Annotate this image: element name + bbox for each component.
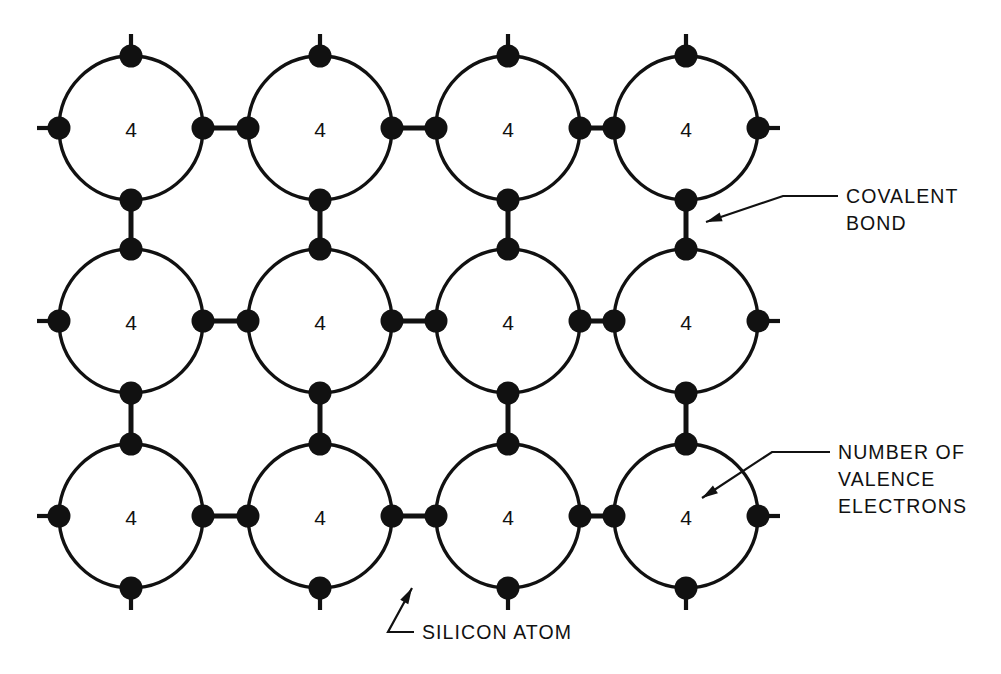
annotation-label-line: SILICON ATOM xyxy=(422,621,572,643)
valence-electron-dot xyxy=(237,117,260,140)
valence-electron-dot xyxy=(675,45,698,68)
leader-line xyxy=(702,452,830,498)
silicon-lattice-diagram: 444444444444 COVALENTBONDNUMBER OFVALENC… xyxy=(0,0,1001,674)
valence-electron-dot xyxy=(237,505,260,528)
valence-electron-count: 4 xyxy=(680,311,692,334)
valence-electron-dot xyxy=(675,577,698,600)
valence-electron-count: 4 xyxy=(680,118,692,141)
valence-electron-dot xyxy=(120,189,143,212)
valence-electron-dot xyxy=(381,117,404,140)
valence-electron-dot xyxy=(675,433,698,456)
valence-electron-dot xyxy=(497,45,520,68)
leader-arrowhead xyxy=(400,588,412,604)
valence-electron-dot xyxy=(569,117,592,140)
valence-electron-dot xyxy=(309,45,332,68)
valence-electron-dot xyxy=(309,238,332,261)
valence-electron-dot xyxy=(120,577,143,600)
valence-electron-dot xyxy=(381,505,404,528)
valence-electron-dot xyxy=(237,310,260,333)
leader-arrowhead xyxy=(706,212,723,222)
annotation-valence-electrons: NUMBER OFVALENCEELECTRONS xyxy=(702,441,967,517)
valence-electron-dot xyxy=(192,505,215,528)
valence-electron-dot xyxy=(309,382,332,405)
leader-line xyxy=(706,196,838,222)
valence-electron-count: 4 xyxy=(314,506,326,529)
valence-electron-count: 4 xyxy=(502,311,514,334)
valence-electron-dot xyxy=(569,310,592,333)
valence-electron-dot xyxy=(747,117,770,140)
annotation-silicon-atom: SILICON ATOM xyxy=(388,588,572,643)
lattice-canvas: 444444444444 COVALENTBONDNUMBER OFVALENC… xyxy=(0,0,1001,674)
annotation-label-line: VALENCE xyxy=(838,468,935,490)
valence-electron-dot xyxy=(425,310,448,333)
leader-arrowhead xyxy=(702,485,718,498)
valence-electron-dot xyxy=(603,505,626,528)
valence-electron-count: 4 xyxy=(502,506,514,529)
valence-electron-count: 4 xyxy=(314,118,326,141)
valence-electron-dot xyxy=(497,189,520,212)
valence-electron-dot xyxy=(48,310,71,333)
valence-electron-dot xyxy=(120,433,143,456)
valence-electron-dot xyxy=(120,382,143,405)
valence-electron-dot xyxy=(603,310,626,333)
valence-electron-dot xyxy=(675,238,698,261)
valence-electron-count: 4 xyxy=(314,311,326,334)
annotation-covalent-bond: COVALENTBOND xyxy=(706,185,958,234)
annotation-label-line: BOND xyxy=(846,212,907,234)
valence-electron-dot xyxy=(120,45,143,68)
valence-electron-dot xyxy=(675,382,698,405)
valence-electron-dot xyxy=(48,505,71,528)
valence-electron-dot xyxy=(192,117,215,140)
valence-electron-count: 4 xyxy=(680,506,692,529)
valence-electron-dot xyxy=(497,382,520,405)
valence-electron-dot xyxy=(48,117,71,140)
annotation-label-line: COVALENT xyxy=(846,185,958,207)
valence-electron-dot xyxy=(747,505,770,528)
valence-electron-dot xyxy=(497,577,520,600)
valence-electron-dot xyxy=(309,189,332,212)
annotation-label-line: NUMBER OF xyxy=(838,441,965,463)
valence-electron-dot xyxy=(309,577,332,600)
valence-electron-count: 4 xyxy=(502,118,514,141)
valence-electron-dot xyxy=(425,117,448,140)
valence-electron-dot xyxy=(381,310,404,333)
annotation-label-line: ELECTRONS xyxy=(838,495,967,517)
valence-electron-dot xyxy=(497,433,520,456)
valence-electron-count: 4 xyxy=(125,506,137,529)
valence-electron-dot xyxy=(569,505,592,528)
valence-electron-dot xyxy=(192,310,215,333)
valence-electron-count: 4 xyxy=(125,118,137,141)
valence-electron-dot xyxy=(747,310,770,333)
valence-electron-count: 4 xyxy=(125,311,137,334)
valence-electron-dot xyxy=(603,117,626,140)
valence-electron-dot xyxy=(309,433,332,456)
valence-electron-dot xyxy=(497,238,520,261)
valence-electron-dot xyxy=(425,505,448,528)
valence-electron-dot xyxy=(120,238,143,261)
valence-electron-dot xyxy=(675,189,698,212)
